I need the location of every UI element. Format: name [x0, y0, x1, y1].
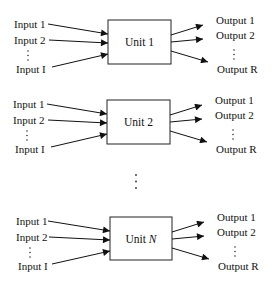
output-arrow-2 [172, 236, 204, 239]
input-label-last: Input I [16, 63, 46, 75]
unit-label: Unit 2 [124, 116, 153, 128]
input-ellipsis [27, 50, 29, 61]
output-label-2: Output 2 [216, 29, 255, 41]
input-arrow-2 [49, 40, 108, 43]
output-label-1: Output 1 [215, 94, 254, 106]
multi-unit-io-diagram: Unit 1 Input 1 Input 2 Input I Output 1 … [0, 0, 272, 292]
output-label-2: Output 2 [215, 109, 254, 121]
input-arrow-1 [48, 221, 110, 231]
output-ellipsis [232, 129, 234, 140]
input-arrow-2 [48, 120, 107, 123]
output-arrow-1 [171, 25, 203, 35]
input-ellipsis [26, 130, 28, 141]
output-ellipsis [233, 49, 235, 60]
input-label-1: Input 1 [14, 18, 45, 30]
input-label-1: Input 1 [16, 215, 47, 227]
input-label-2: Input 2 [16, 231, 47, 243]
output-label-1: Output 1 [216, 14, 255, 26]
input-arrow-last [51, 134, 107, 147]
output-label-2: Output 2 [217, 226, 256, 238]
output-arrow-last [171, 51, 208, 62]
unit-label: Unit 1 [125, 36, 154, 48]
output-arrow-last [172, 248, 209, 259]
output-label-last: Output R [217, 63, 258, 75]
input-arrow-last [52, 251, 110, 264]
input-arrow-last [52, 54, 108, 67]
input-arrow-1 [47, 104, 107, 114]
input-label-last: Input I [18, 260, 48, 272]
output-label-1: Output 1 [217, 211, 256, 223]
input-ellipsis [29, 247, 31, 258]
input-label-2: Input 2 [14, 34, 45, 46]
input-arrow-2 [49, 237, 110, 240]
output-arrow-1 [170, 105, 202, 115]
output-arrow-last [170, 131, 207, 142]
unit-block-1: Unit 1 Input 1 Input 2 Input I Output 1 … [14, 14, 258, 75]
output-arrow-2 [170, 119, 202, 122]
unit-block-2: Unit 2 Input 1 Input 2 Input I Output 1 … [13, 94, 257, 155]
output-arrow-1 [172, 222, 204, 232]
output-label-last: Output R [216, 143, 257, 155]
input-label-1: Input 1 [13, 98, 44, 110]
input-label-last: Input I [15, 143, 45, 155]
output-arrow-2 [171, 39, 203, 42]
units-ellipsis [135, 174, 137, 189]
unit-block-n: Unit N Input 1 Input 2 Input I Output 1 … [16, 211, 259, 272]
output-ellipsis [234, 246, 236, 257]
output-label-last: Output R [218, 260, 259, 272]
input-arrow-1 [48, 24, 108, 34]
input-label-2: Input 2 [13, 114, 44, 126]
unit-label: Unit N [126, 233, 158, 245]
